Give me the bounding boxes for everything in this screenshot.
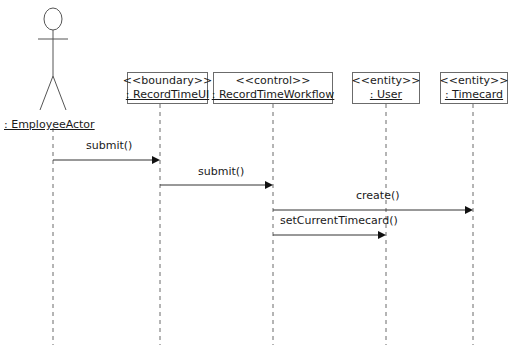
arrowhead-icon bbox=[152, 156, 160, 164]
participant-record-time-ui: <<boundary>> : RecordTimeUI bbox=[127, 72, 208, 104]
participant-user: <<entity>> : User bbox=[352, 72, 420, 104]
stereotype-label: <<boundary>> bbox=[123, 74, 212, 88]
actor-label: : EmployeeActor bbox=[4, 118, 95, 131]
participant-name: : User bbox=[370, 88, 402, 102]
stereotype-label: <<control>> bbox=[236, 74, 311, 88]
actor-stick-figure-icon bbox=[38, 8, 68, 110]
arrowhead-icon bbox=[265, 181, 273, 189]
arrowhead-icon bbox=[465, 206, 473, 214]
diagram-canvas bbox=[0, 0, 527, 359]
participant-name: : RecordTimeUI bbox=[126, 88, 209, 102]
stereotype-label: <<entity>> bbox=[440, 74, 509, 88]
participant-name: : Timecard bbox=[445, 88, 503, 102]
message-label-submit-1: submit() bbox=[86, 139, 132, 152]
participant-record-time-workflow: <<control>> : RecordTimeWorkflow bbox=[213, 72, 333, 104]
arrowhead-icon bbox=[378, 231, 386, 239]
message-label-create: create() bbox=[356, 189, 400, 202]
stereotype-label: <<entity>> bbox=[352, 74, 421, 88]
participant-timecard: <<entity>> : Timecard bbox=[440, 72, 508, 104]
participant-name: : RecordTimeWorkflow bbox=[212, 88, 335, 102]
message-label-set-current-timecard: setCurrentTimecard() bbox=[280, 214, 398, 227]
message-label-submit-2: submit() bbox=[198, 165, 244, 178]
